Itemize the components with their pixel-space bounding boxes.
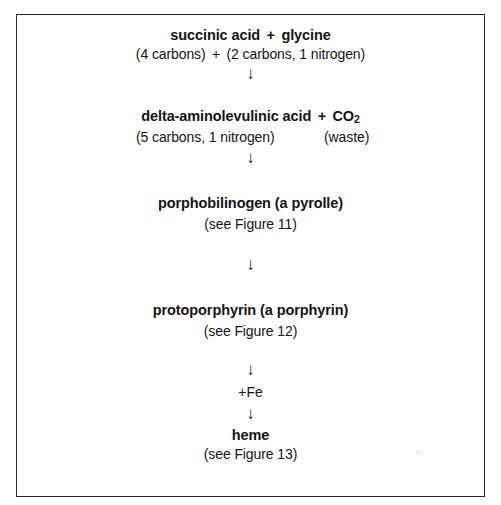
pathway-step-3-compound: porphobilinogen (a pyrolle) [17, 195, 484, 211]
compound-label-glycine: glycine [281, 27, 330, 43]
detail-carbon-count-delta-aminolevulinic-acid: (5 carbons, 1 nitrogen) [136, 130, 275, 144]
pathway-step-5-detail: (see Figure 13) [17, 446, 484, 462]
plus-operator: + [265, 28, 277, 43]
pathway-step-2-detail: (5 carbons, 1 nitrogen) (waste) [17, 129, 484, 145]
compound-label-heme: heme [232, 427, 269, 443]
pathway-step-4-detail: (see Figure 12) [17, 323, 484, 339]
detail-waste-label: (waste) [324, 130, 369, 144]
compound-label-delta-aminolevulinic-acid: delta-aminolevulinic acid [141, 108, 311, 124]
pathway-step-5-compound: heme [17, 427, 484, 443]
pathway-step-1-detail: (4 carbons) + (2 carbons, 1 nitrogen) [17, 46, 484, 62]
plus-operator: + [210, 47, 222, 61]
compound-label-succinic-acid: succinic acid [170, 27, 260, 43]
scan-artifact [416, 450, 423, 455]
pathway-diagram: succinic acid + glycine (4 carbons) + (2… [17, 15, 484, 496]
plus-operator: + [316, 109, 328, 124]
carbon-dioxide-symbol: CO [332, 108, 354, 124]
down-arrow-icon: ↓ [17, 65, 484, 82]
pathway-step-1-compound: succinic acid + glycine [17, 27, 484, 43]
compound-label-carbon-dioxide: CO2 [332, 108, 359, 124]
pathway-step-4-compound: protoporphyrin (a porphyrin) [17, 302, 484, 318]
down-arrow-icon: ↓ [17, 361, 484, 378]
carbon-dioxide-subscript: 2 [354, 114, 360, 125]
down-arrow-icon: ↓ [17, 149, 484, 166]
detail-carbon-count-succinic-acid: (4 carbons) [136, 46, 206, 62]
compound-label-porphobilinogen: porphobilinogen (a pyrolle) [158, 195, 343, 211]
down-arrow-icon: ↓ [17, 405, 484, 422]
figure-reference-12: (see Figure 12) [204, 323, 297, 339]
compound-label-protoporphyrin: protoporphyrin (a porphyrin) [153, 302, 348, 318]
pathway-step-2-compound: delta-aminolevulinic acid + CO2 [17, 108, 484, 126]
figure-border-frame: succinic acid + glycine (4 carbons) + (2… [16, 14, 485, 497]
pathway-step-3-detail: (see Figure 11) [17, 216, 484, 232]
detail-carbon-count-glycine: (2 carbons, 1 nitrogen) [227, 46, 366, 62]
figure-reference-13: (see Figure 13) [204, 446, 297, 462]
down-arrow-icon: ↓ [17, 256, 484, 273]
cofactor-label-iron: +Fe [17, 385, 484, 399]
figure-reference-11: (see Figure 11) [204, 216, 296, 232]
